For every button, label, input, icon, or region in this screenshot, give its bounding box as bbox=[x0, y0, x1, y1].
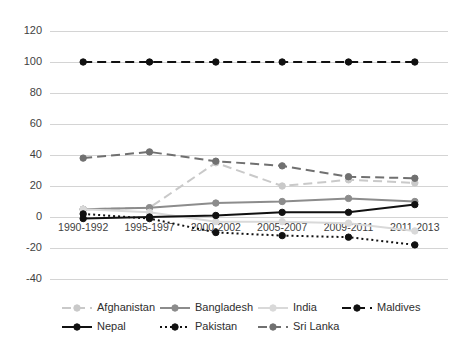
legend-label: Sri Lanka bbox=[293, 320, 340, 332]
data-point bbox=[345, 174, 351, 180]
legend-swatch-marker bbox=[270, 305, 276, 311]
data-point bbox=[279, 198, 285, 204]
data-point bbox=[279, 209, 285, 215]
data-point bbox=[412, 175, 418, 181]
data-point bbox=[279, 59, 285, 65]
data-point bbox=[213, 158, 219, 164]
legend-swatch-marker bbox=[74, 324, 80, 330]
data-point bbox=[213, 59, 219, 65]
data-point bbox=[80, 211, 86, 217]
data-point bbox=[146, 59, 152, 65]
data-point bbox=[345, 220, 351, 226]
data-point bbox=[345, 234, 351, 240]
data-point bbox=[213, 200, 219, 206]
data-point bbox=[80, 59, 86, 65]
data-point bbox=[345, 195, 351, 201]
data-point bbox=[213, 229, 219, 235]
y-axis-tick-label: 0 bbox=[36, 210, 42, 222]
legend-label: Maldives bbox=[377, 301, 421, 313]
y-axis-tick-label: 120 bbox=[24, 24, 42, 36]
y-axis-tick-label: 60 bbox=[30, 117, 42, 129]
data-point bbox=[80, 155, 86, 161]
data-point bbox=[213, 218, 219, 224]
y-axis-tick-label: -20 bbox=[26, 241, 42, 253]
data-point bbox=[213, 212, 219, 218]
legend-swatch-marker bbox=[172, 324, 178, 330]
data-point bbox=[279, 183, 285, 189]
data-point bbox=[345, 59, 351, 65]
data-point bbox=[412, 228, 418, 234]
legend-label: Afghanistan bbox=[97, 301, 155, 313]
line-chart: -40-20020406080100120 1990-19921995-1997… bbox=[0, 0, 457, 346]
chart-background bbox=[0, 0, 457, 346]
legend-label: India bbox=[293, 301, 318, 313]
legend-swatch-marker bbox=[74, 305, 80, 311]
y-axis-tick-label: 100 bbox=[24, 55, 42, 67]
legend-label: Pakistan bbox=[195, 320, 237, 332]
y-axis-tick-label: 80 bbox=[30, 86, 42, 98]
y-axis-tick-label: 20 bbox=[30, 179, 42, 191]
data-point bbox=[412, 201, 418, 207]
legend-swatch-marker bbox=[172, 305, 178, 311]
data-point bbox=[279, 232, 285, 238]
legend-label: Nepal bbox=[97, 320, 126, 332]
legend-swatch-marker bbox=[354, 305, 360, 311]
data-point bbox=[279, 218, 285, 224]
legend-swatch-marker bbox=[270, 324, 276, 330]
legend-label: Bangladesh bbox=[195, 301, 253, 313]
data-point bbox=[146, 215, 152, 221]
data-point bbox=[412, 59, 418, 65]
x-axis-tick-label: 1990-1992 bbox=[58, 221, 108, 233]
data-point bbox=[345, 209, 351, 215]
x-axis-tick-label: 1995-1997 bbox=[124, 221, 174, 233]
chart-canvas: -40-20020406080100120 1990-19921995-1997… bbox=[0, 0, 457, 346]
y-axis-tick-label: -40 bbox=[26, 272, 42, 284]
data-point bbox=[146, 149, 152, 155]
data-point bbox=[412, 242, 418, 248]
y-axis-tick-label: 40 bbox=[30, 148, 42, 160]
data-point bbox=[279, 163, 285, 169]
